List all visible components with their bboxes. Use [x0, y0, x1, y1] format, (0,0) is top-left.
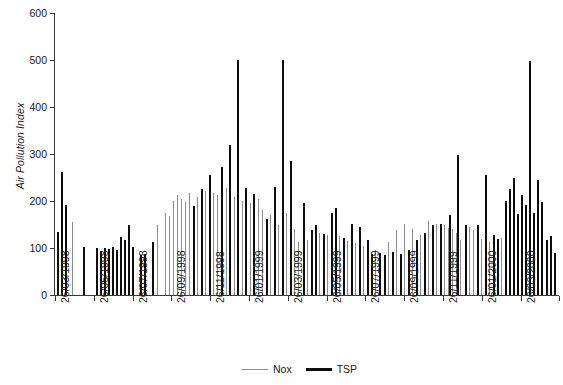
- x-axis-tick-mark: [210, 296, 211, 301]
- bar-nox: [388, 242, 389, 295]
- y-axis-tick-label: 600: [17, 8, 47, 18]
- bar-nox: [205, 191, 206, 295]
- bar-tsp: [266, 219, 268, 295]
- bar-tsp: [237, 60, 239, 295]
- bar-tsp: [229, 145, 231, 295]
- bar-nox: [157, 225, 158, 296]
- x-axis-tick-label: 26/03/1998: [59, 250, 71, 303]
- bar-tsp: [477, 225, 479, 296]
- y-axis-tick-label: 100: [17, 243, 47, 253]
- x-axis-tick-label: 26/11/1998: [214, 251, 226, 303]
- bar-nox: [396, 230, 397, 295]
- x-axis-tick-label: 26/09/1998: [175, 250, 187, 303]
- legend-swatch-nox-icon: [242, 369, 268, 370]
- bar-nox: [428, 221, 429, 295]
- x-axis-tick-mark: [521, 296, 522, 301]
- bar-nox: [469, 227, 470, 295]
- bar-nox: [286, 213, 287, 295]
- bar-nox: [444, 225, 445, 295]
- legend-swatch-tsp-icon: [306, 368, 332, 371]
- x-axis-tick-mark: [133, 296, 134, 301]
- bar-nox: [197, 197, 198, 295]
- plot-area: [55, 13, 559, 295]
- x-axis-tick-label: 26/09/1999: [408, 250, 420, 303]
- bar-nox: [189, 193, 190, 295]
- x-axis-tick-mark: [482, 296, 483, 301]
- bar-tsp: [392, 252, 394, 295]
- bar-nox: [169, 216, 170, 295]
- bar-tsp: [550, 236, 552, 295]
- x-axis-tick-mark: [327, 296, 328, 301]
- bar-tsp: [282, 60, 284, 295]
- bar-tsp: [128, 225, 130, 296]
- x-axis-tick-label: 26/01/2000: [486, 250, 498, 303]
- bar-tsp: [509, 189, 511, 295]
- bar-tsp: [152, 242, 154, 295]
- bar-tsp: [201, 189, 203, 295]
- bar-tsp: [274, 187, 276, 295]
- x-axis-tick-label: 26/05/1999: [331, 250, 343, 303]
- y-axis-tick-label: 0: [17, 290, 47, 300]
- x-axis-tick-label: 26/07/1999: [369, 250, 381, 303]
- bar-nox: [270, 215, 271, 295]
- bar-tsp: [541, 202, 543, 295]
- x-axis-tick-mark: [404, 296, 405, 301]
- x-axis-line: [54, 295, 559, 296]
- bar-tsp: [440, 224, 442, 295]
- x-axis-tick-label: 26/01/1999: [253, 250, 265, 303]
- bar-nox: [278, 225, 279, 296]
- bar-tsp: [517, 214, 519, 295]
- bar-nox: [173, 201, 174, 295]
- x-axis-tick-mark: [559, 296, 560, 301]
- air-pollution-index-chart: Air Pollution Index 0100200300400500600 …: [0, 0, 563, 385]
- bar-tsp: [384, 255, 386, 295]
- bar-tsp: [315, 225, 317, 295]
- legend-item-nox[interactable]: Nox: [242, 363, 292, 375]
- bar-tsp: [424, 233, 426, 295]
- bar-tsp: [351, 224, 353, 295]
- legend-item-tsp[interactable]: TSP: [306, 363, 357, 375]
- bar-tsp: [537, 180, 539, 295]
- bar-nox: [319, 233, 320, 295]
- bar-nox: [165, 213, 166, 295]
- bar-nox: [307, 240, 308, 295]
- x-axis-tick-label: 26/11/1999: [447, 251, 459, 303]
- x-axis-tick-label: 26/03/1999: [292, 250, 304, 303]
- bar-nox: [436, 224, 437, 295]
- x-axis-tick-mark: [171, 296, 172, 301]
- bar-nox: [473, 230, 474, 295]
- bar-tsp: [132, 247, 134, 295]
- bar-tsp: [116, 250, 118, 295]
- bar-tsp: [323, 234, 325, 295]
- bar-nox: [420, 235, 421, 295]
- legend-label-tsp: TSP: [337, 363, 357, 375]
- bar-nox: [363, 246, 364, 295]
- bar-tsp: [112, 247, 114, 295]
- bar-tsp: [245, 188, 247, 295]
- bar-nox: [347, 241, 348, 295]
- bar-tsp: [465, 225, 467, 295]
- bar-tsp: [432, 225, 434, 296]
- y-axis-tick-label: 500: [17, 55, 47, 65]
- bar-tsp: [554, 253, 556, 295]
- bar-nox: [72, 222, 73, 295]
- x-axis-tick-mark: [443, 296, 444, 301]
- bar-nox: [481, 239, 482, 295]
- bar-tsp: [343, 238, 345, 295]
- x-axis-tick-mark: [55, 296, 56, 301]
- bar-tsp: [521, 195, 523, 295]
- x-axis-tick-label: 26/07/1998: [137, 250, 149, 303]
- bar-tsp: [209, 175, 211, 295]
- x-axis-tick-mark: [249, 296, 250, 301]
- y-axis-tick-label: 400: [17, 102, 47, 112]
- y-axis-tick-label: 300: [17, 149, 47, 159]
- bar-tsp: [124, 240, 126, 295]
- legend-label-nox: Nox: [273, 363, 292, 375]
- bar-tsp: [400, 254, 402, 295]
- x-axis-tick-mark: [288, 296, 289, 301]
- bar-tsp: [120, 237, 122, 295]
- bar-tsp: [193, 206, 195, 295]
- bar-tsp: [311, 230, 313, 295]
- bar-nox: [355, 243, 356, 295]
- bar-tsp: [505, 201, 507, 295]
